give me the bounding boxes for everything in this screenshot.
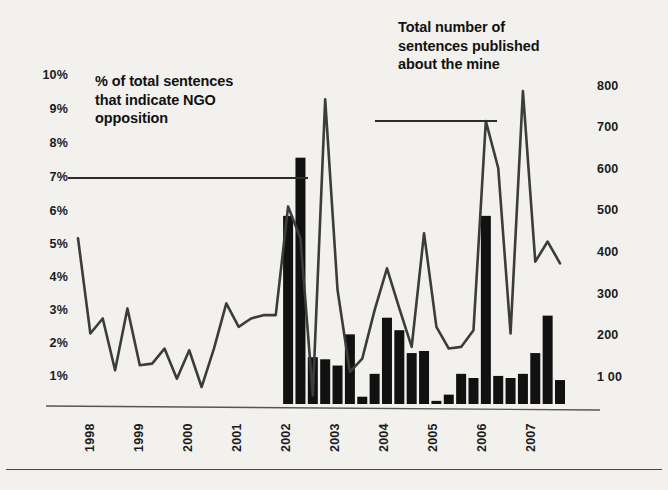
y-axis-left-tick-label: 7%	[26, 170, 68, 184]
y-axis-right-tick-label: 800	[597, 79, 618, 93]
x-axis-tick-label: 2004	[377, 423, 391, 452]
y-axis-left-tick-label: 6%	[26, 204, 68, 218]
chart-figure: 10%9%8%7%6%5%4%3%2%1% 800700600500400300…	[0, 0, 668, 490]
bar	[518, 374, 528, 404]
y-axis-left-tick-label: 3%	[26, 303, 68, 317]
y-axis-right-tick-label: 300	[597, 287, 618, 301]
bar	[456, 374, 466, 404]
bar	[530, 353, 540, 404]
y-axis-left-tick-label: 4%	[26, 270, 68, 284]
page-divider-rule	[6, 469, 662, 470]
bar	[468, 378, 478, 404]
bar	[357, 397, 367, 404]
x-axis-tick-label: 2002	[279, 423, 293, 452]
y-axis-left-tick-label: 8%	[26, 136, 68, 150]
x-axis-tick-label: 2006	[475, 423, 489, 452]
y-axis-right-tick-label: 1 00	[597, 370, 622, 384]
x-axis-tick-label: 2000	[181, 423, 195, 452]
x-axis-tick-label: 1999	[132, 423, 146, 452]
annotation-right-series-label: Total number of sentences published abou…	[398, 18, 578, 74]
x-axis-tick-label: 2005	[426, 423, 440, 452]
bar	[407, 353, 417, 404]
annotation-left-series-label: % of total sentences that indicate NGO o…	[95, 72, 255, 128]
bar	[382, 318, 392, 404]
x-axis-tick-label: 2003	[328, 423, 342, 452]
y-axis-left-tick-label: 2%	[26, 336, 68, 350]
annotation-right-leader-line	[375, 120, 497, 122]
y-axis-left-tick-label: 1%	[26, 369, 68, 383]
bar	[506, 378, 516, 404]
y-axis-right-tick-label: 500	[597, 203, 618, 217]
bar	[419, 351, 429, 404]
y-axis-left-tick-label: 9%	[26, 102, 68, 116]
bar	[394, 330, 404, 404]
x-axis-tick-label: 1998	[83, 423, 97, 452]
bar-series-group	[283, 158, 565, 404]
y-axis-left-tick-label: 10%	[26, 68, 68, 82]
bar	[320, 359, 330, 404]
y-axis-right-tick-label: 400	[597, 245, 618, 259]
bar	[333, 366, 343, 404]
x-axis-tick-label: 2001	[230, 423, 244, 452]
y-axis-right-tick-label: 200	[597, 328, 618, 342]
x-axis-tick-label: 2007	[524, 423, 538, 452]
y-axis-left-tick-label: 5%	[26, 237, 68, 251]
bar	[493, 376, 503, 404]
x-axis-line	[46, 406, 600, 410]
bar	[370, 374, 380, 404]
bar	[543, 316, 553, 404]
bar	[431, 401, 441, 404]
y-axis-right-tick-label: 600	[597, 162, 618, 176]
bar	[444, 395, 454, 404]
bar	[555, 380, 565, 404]
bar	[481, 216, 491, 404]
y-axis-right-tick-label: 700	[597, 120, 618, 134]
annotation-left-leader-line	[68, 177, 308, 179]
